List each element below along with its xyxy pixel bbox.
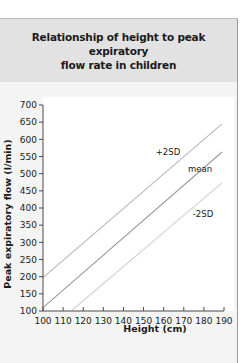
x-tick-label: 100 xyxy=(34,316,51,326)
x-tick-label: 180 xyxy=(195,316,212,326)
y-tick-label: 100 xyxy=(20,306,37,316)
x-tick-label: 110 xyxy=(55,316,72,326)
x-tick-label: 120 xyxy=(75,316,92,326)
y-tick-label: 350 xyxy=(20,220,37,230)
y-tick-label: 400 xyxy=(20,203,37,213)
y-tick-label: 250 xyxy=(20,255,37,265)
x-axis-label: Height (cm) xyxy=(123,323,186,334)
plot-canvas xyxy=(43,97,234,311)
series-label-mean: mean xyxy=(188,164,212,174)
y-tick-label: 200 xyxy=(20,272,37,282)
y-axis-label: Peak expiratory flow (l/min) xyxy=(2,139,13,288)
y-tick-label: 650 xyxy=(20,117,37,127)
x-tick-label: 190 xyxy=(215,316,232,326)
series-layer xyxy=(43,97,234,311)
series-label-plus2sd: +2SD xyxy=(156,147,181,157)
line-chart: 1001502002503003504004505005506006507001… xyxy=(0,0,243,363)
y-tick-label: 150 xyxy=(20,289,37,299)
y-tick-label: 300 xyxy=(20,238,37,248)
y-tick-label: 600 xyxy=(20,135,37,145)
y-tick-label: 700 xyxy=(20,100,37,110)
series-label-minus2sd: -2SD xyxy=(193,209,214,219)
y-tick-label: 550 xyxy=(20,152,37,162)
y-tick-label: 450 xyxy=(20,186,37,196)
y-tick-label: 500 xyxy=(20,169,37,179)
x-tick-label: 130 xyxy=(95,316,112,326)
